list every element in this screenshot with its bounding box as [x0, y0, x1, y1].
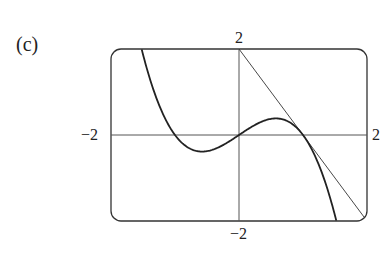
plot-area — [0, 0, 392, 254]
